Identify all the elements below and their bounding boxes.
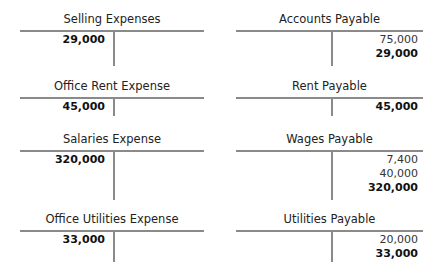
t-account-horizontal-line xyxy=(236,30,423,32)
credit-amount: 33,000 xyxy=(336,247,418,261)
debit-amount: 320,000 xyxy=(20,153,105,167)
t-account-vertical-line xyxy=(331,150,333,200)
credit-amount: 20,000 xyxy=(336,233,418,247)
t-account-horizontal-line xyxy=(20,30,204,32)
debit-side: 320,000 xyxy=(20,153,105,167)
credit-side: 7,400 40,000 320,000 xyxy=(336,153,418,195)
t-account-rent-payable: Rent Payable 45,000 xyxy=(236,79,423,119)
account-title: Salaries Expense xyxy=(20,132,204,146)
t-account-salaries-expense: Salaries Expense 320,000 xyxy=(20,132,204,202)
t-account-office-rent-expense: Office Rent Expense 45,000 xyxy=(20,79,204,119)
credit-side: 45,000 xyxy=(336,100,418,114)
t-account-horizontal-line xyxy=(236,150,423,152)
credit-amount: 320,000 xyxy=(336,181,418,195)
credit-amount: 7,400 xyxy=(336,153,418,167)
debit-side: 33,000 xyxy=(20,233,105,247)
account-title: Wages Payable xyxy=(236,132,423,146)
credit-side: 20,000 33,000 xyxy=(336,233,418,261)
debit-side: 29,000 xyxy=(20,33,105,47)
t-account-vertical-line xyxy=(113,97,115,116)
t-account-utilities-payable: Utilities Payable 20,000 33,000 xyxy=(236,212,423,264)
t-account-accounts-payable: Accounts Payable 75,000 29,000 xyxy=(236,12,423,68)
t-account-vertical-line xyxy=(331,97,333,116)
credit-amount: 75,000 xyxy=(336,33,418,47)
t-account-vertical-line xyxy=(113,30,115,66)
account-title: Office Utilities Expense xyxy=(20,212,204,226)
credit-side: 75,000 29,000 xyxy=(336,33,418,61)
account-title: Office Rent Expense xyxy=(20,79,204,93)
account-title: Accounts Payable xyxy=(236,12,423,26)
t-account-vertical-line xyxy=(331,30,333,66)
account-title: Rent Payable xyxy=(236,79,423,93)
debit-amount: 33,000 xyxy=(20,233,105,247)
debit-amount: 45,000 xyxy=(20,100,105,114)
t-account-vertical-line xyxy=(331,230,333,262)
t-account-horizontal-line xyxy=(236,97,423,99)
debit-side: 45,000 xyxy=(20,100,105,114)
t-account-wages-payable: Wages Payable 7,400 40,000 320,000 xyxy=(236,132,423,202)
t-account-vertical-line xyxy=(113,150,115,200)
account-title: Utilities Payable xyxy=(236,212,423,226)
t-account-office-utilities-expense: Office Utilities Expense 33,000 xyxy=(20,212,204,264)
credit-amount: 40,000 xyxy=(336,167,418,181)
t-account-horizontal-line xyxy=(20,150,204,152)
credit-amount: 45,000 xyxy=(336,100,418,114)
credit-amount: 29,000 xyxy=(336,47,418,61)
t-account-horizontal-line xyxy=(236,230,423,232)
t-account-vertical-line xyxy=(113,230,115,262)
t-account-horizontal-line xyxy=(20,97,204,99)
debit-amount: 29,000 xyxy=(20,33,105,47)
t-account-horizontal-line xyxy=(20,230,204,232)
account-title: Selling Expenses xyxy=(20,12,204,26)
t-account-selling-expenses: Selling Expenses 29,000 xyxy=(20,12,204,68)
